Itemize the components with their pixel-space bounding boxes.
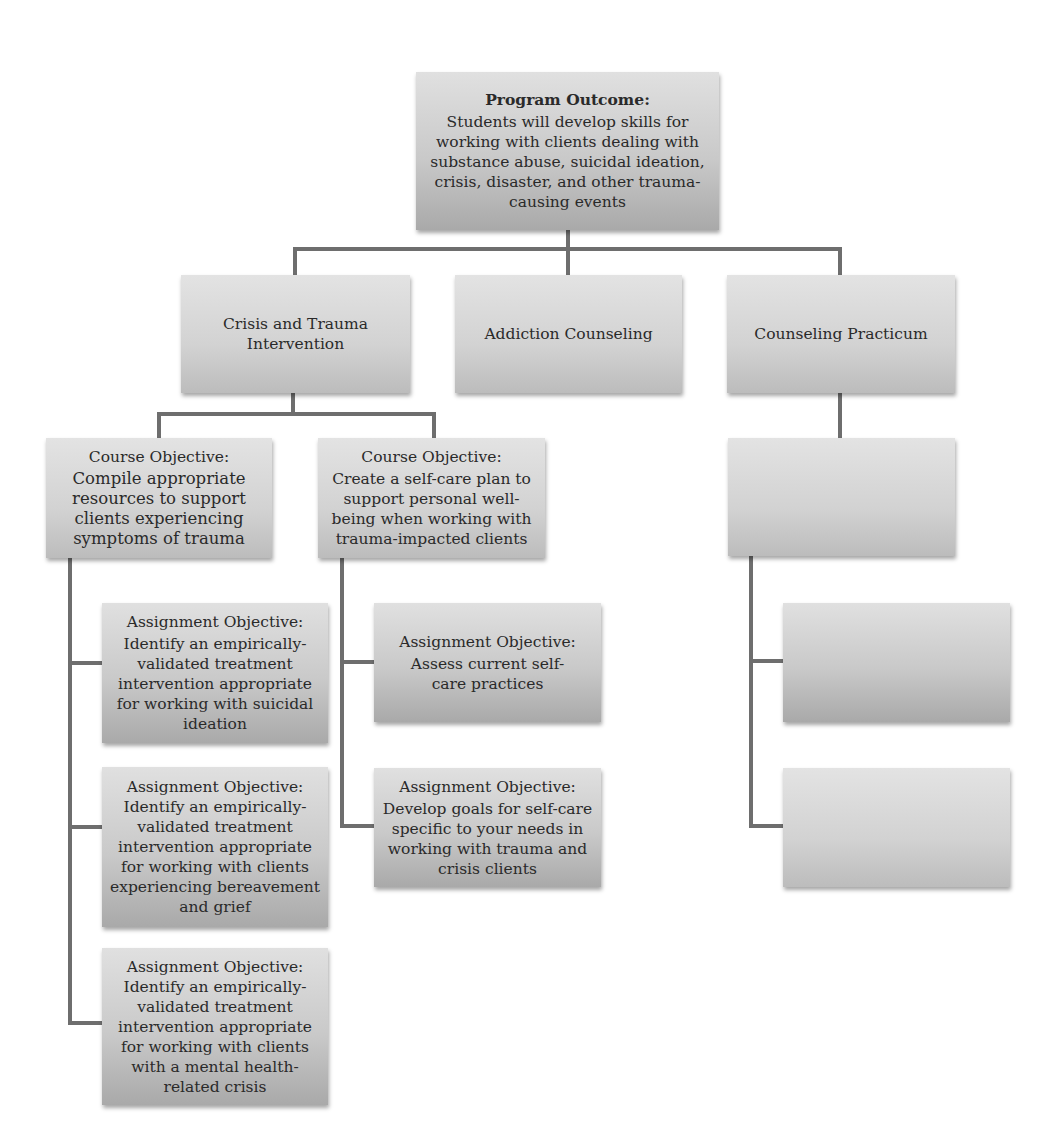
assignment-objective-text: Assess current self-care practices bbox=[403, 654, 573, 694]
assignment-objective-heading: Assignment Objective: bbox=[127, 777, 304, 797]
program-outcome-text: Students will develop skills for working… bbox=[424, 112, 711, 212]
assignment-objective-box: Assignment Objective: Identify an empiri… bbox=[102, 948, 328, 1105]
course-objective-text: Compile appropriate resources to support… bbox=[54, 469, 264, 549]
connector-level1-bar bbox=[293, 247, 842, 251]
connector-to-crisis bbox=[293, 247, 297, 275]
assignment-objective-text: Develop goals for self-care specific to … bbox=[382, 799, 593, 879]
program-outcome-heading: Program Outcome bbox=[485, 90, 644, 109]
course-crisis-trauma: Crisis and Trauma Intervention bbox=[181, 275, 410, 393]
assignment-objective-text: Identify an empirically-validated treatm… bbox=[110, 797, 320, 917]
course-addiction-counseling: Addiction Counseling bbox=[455, 275, 682, 393]
connector-assign-2-2 bbox=[340, 824, 374, 828]
course-label: Addiction Counseling bbox=[484, 324, 652, 344]
connector-to-course-obj-1 bbox=[157, 412, 161, 438]
connector-assign-1-3 bbox=[68, 1021, 102, 1025]
connector-to-practicum bbox=[838, 247, 842, 275]
connector-assign-2-1 bbox=[340, 660, 374, 664]
assignment-objective-box: Assignment Objective: Develop goals for … bbox=[374, 768, 601, 887]
assignment-objective-text: Identify an empirically-validated treatm… bbox=[110, 634, 320, 734]
assignment-objective-heading: Assignment Objective: bbox=[127, 957, 304, 977]
connector-assign-3-2 bbox=[749, 824, 783, 828]
course-objective-box: Course Objective: Compile appropriate re… bbox=[46, 438, 272, 558]
course-objective-heading: Course Objective: bbox=[361, 447, 501, 467]
assignment-objective-heading: Assignment Objective: bbox=[399, 777, 576, 797]
assignment-objective-heading: Assignment Objective: bbox=[127, 612, 304, 632]
program-outcome-box: Program Outcome: Students will develop s… bbox=[416, 72, 719, 230]
course-label: Counseling Practicum bbox=[754, 324, 927, 344]
course-label: Crisis and Trauma Intervention bbox=[221, 314, 371, 354]
assignment-objective-text: Identify an empirically-validated treatm… bbox=[110, 977, 320, 1097]
assignment-objective-box: Assignment Objective: Identify an empiri… bbox=[102, 767, 328, 927]
connector-assign-3-1 bbox=[749, 659, 783, 663]
course-objective-text: Create a self-care plan to support perso… bbox=[326, 469, 537, 549]
connector-assign-1-2 bbox=[68, 825, 102, 829]
connector-practicum-down bbox=[838, 393, 842, 438]
connector-root-down bbox=[566, 230, 570, 275]
course-objective-heading: Course Objective: bbox=[89, 447, 229, 467]
assignment-objective-box: Assignment Objective: Identify an empiri… bbox=[102, 603, 328, 743]
connector-level2-bar bbox=[157, 412, 436, 416]
connector-obj1-spine bbox=[68, 558, 72, 1025]
connector-to-course-obj-2 bbox=[432, 412, 436, 438]
assignment-objective-heading: Assignment Objective: bbox=[399, 632, 576, 652]
assignment-objective-box-empty bbox=[783, 603, 1010, 722]
assignment-objective-box-empty bbox=[783, 768, 1010, 887]
course-objective-box-empty bbox=[728, 438, 955, 556]
assignment-objective-box: Assignment Objective: Assess current sel… bbox=[374, 603, 601, 722]
connector-obj2-spine bbox=[340, 558, 344, 828]
connector-practicum-obj-spine bbox=[749, 556, 753, 828]
course-counseling-practicum: Counseling Practicum bbox=[727, 275, 955, 393]
course-objective-box: Course Objective: Create a self-care pla… bbox=[318, 438, 545, 558]
connector-assign-1-1 bbox=[68, 661, 102, 665]
